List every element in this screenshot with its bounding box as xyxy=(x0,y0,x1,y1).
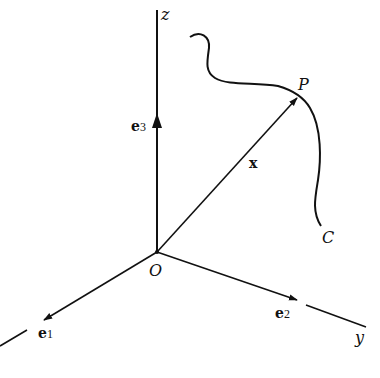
e3-arrowhead-icon xyxy=(152,113,162,128)
coordinate-diagram: z e3 e1 e2 y O xyxy=(0,0,380,378)
point-p-label: P xyxy=(297,75,309,94)
curve-c: P C xyxy=(190,34,334,247)
curve-c-label: C xyxy=(322,228,334,247)
e1-label: e1 xyxy=(38,325,53,341)
origin: O xyxy=(149,250,162,280)
vector-x-label: x xyxy=(249,155,258,171)
e1-axis: e1 xyxy=(0,252,157,346)
position-vector: x xyxy=(157,98,297,252)
z-axis-label: z xyxy=(160,5,170,24)
y-axis: e2 y xyxy=(157,252,366,347)
diagram-canvas: z e3 e1 e2 y O xyxy=(0,0,380,378)
z-axis: z e3 xyxy=(131,5,170,252)
origin-label: O xyxy=(149,261,162,280)
y-axis-label: y xyxy=(354,328,365,347)
e2-label: e2 xyxy=(275,305,290,321)
e3-label: e3 xyxy=(131,118,146,134)
